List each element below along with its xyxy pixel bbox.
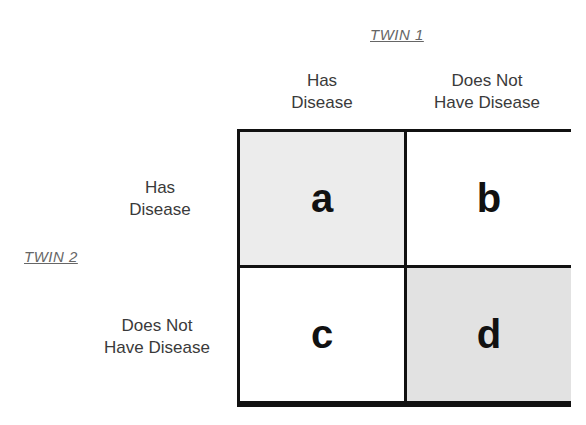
- contingency-table: a b c d: [237, 129, 571, 407]
- column-header-line: Disease: [272, 92, 372, 114]
- row-header-has-disease: Has Disease: [110, 177, 210, 221]
- row-header-does-not-have-disease: Does Not Have Disease: [82, 315, 232, 359]
- cell-b: b: [407, 132, 571, 265]
- column-header-line: Have Disease: [412, 92, 562, 114]
- row-header-line: Has: [110, 177, 210, 199]
- row-header-line: Does Not: [82, 315, 232, 337]
- column-header-does-not-have-disease: Does Not Have Disease: [412, 70, 562, 114]
- cell-c: c: [240, 268, 404, 401]
- twin2-label: TWIN 2: [24, 248, 78, 265]
- row-header-line: Disease: [110, 199, 210, 221]
- column-header-line: Has: [272, 70, 372, 92]
- cell-a: a: [240, 132, 404, 265]
- column-header-line: Does Not: [412, 70, 562, 92]
- twin1-label: TWIN 1: [370, 26, 424, 43]
- row-header-line: Have Disease: [82, 337, 232, 359]
- column-header-has-disease: Has Disease: [272, 70, 372, 114]
- cell-d: d: [407, 268, 571, 401]
